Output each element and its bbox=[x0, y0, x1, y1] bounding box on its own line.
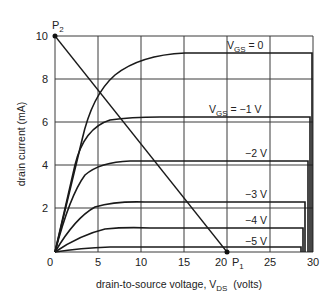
x-axis-ticks: 0 5 10 15 20 25 30 bbox=[47, 256, 319, 268]
grid bbox=[55, 36, 313, 252]
svg-text:2: 2 bbox=[42, 202, 48, 214]
x-axis-title: drain-to-source voltage, VDS(volts) bbox=[96, 278, 262, 293]
label-p1: P1 bbox=[232, 256, 244, 271]
y-axis-ticks: 10 8 6 4 2 bbox=[36, 30, 48, 214]
label-vgs-minus2: −2 V bbox=[245, 147, 267, 159]
svg-text:0: 0 bbox=[47, 256, 53, 268]
svg-text:10: 10 bbox=[36, 30, 48, 42]
label-vgs-minus3: −3 V bbox=[245, 188, 267, 200]
svg-text:20: 20 bbox=[215, 256, 227, 268]
label-vgs-minus5: −5 V bbox=[245, 235, 267, 247]
label-p2: P2 bbox=[52, 19, 64, 34]
svg-text:10: 10 bbox=[135, 256, 147, 268]
svg-text:4: 4 bbox=[42, 159, 48, 171]
point-p1 bbox=[225, 250, 230, 255]
y-axis-title: drain current (mA) bbox=[15, 102, 27, 187]
label-vgs-minus4: −4 V bbox=[245, 214, 267, 226]
svg-text:30: 30 bbox=[307, 256, 319, 268]
jfet-characteristic-chart: 10 8 6 4 2 0 5 10 15 20 25 30 P2 P1 VGS … bbox=[0, 0, 332, 300]
svg-text:5: 5 bbox=[95, 256, 101, 268]
svg-text:15: 15 bbox=[178, 256, 190, 268]
curve-vgs-minus3 bbox=[55, 202, 305, 252]
point-p2 bbox=[53, 34, 58, 39]
label-vgs-0: VGS = 0 bbox=[227, 39, 264, 54]
label-vgs-minus1: VGS = −1 V bbox=[209, 103, 261, 118]
svg-text:8: 8 bbox=[42, 73, 48, 85]
curve-vgs-minus5 bbox=[55, 247, 301, 252]
svg-text:6: 6 bbox=[42, 116, 48, 128]
svg-text:25: 25 bbox=[264, 256, 276, 268]
